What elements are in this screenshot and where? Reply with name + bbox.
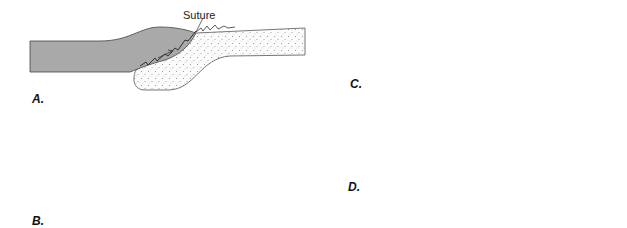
- suture-annotation: Suture: [183, 9, 215, 21]
- panel-b-label: B.: [32, 214, 44, 228]
- panel-a-sediment-folds: [196, 25, 235, 32]
- panel-c-label: C.: [350, 77, 362, 91]
- panel-d-label: D.: [348, 180, 360, 194]
- panel-a-diagram: [30, 18, 305, 90]
- panel-a-label: A.: [32, 92, 44, 106]
- collision-diagram: [0, 0, 627, 228]
